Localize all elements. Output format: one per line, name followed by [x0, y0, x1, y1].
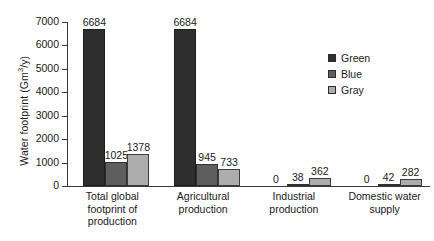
y-axis-tick-label: 0 [53, 179, 59, 191]
y-axis-tick: 1000 [62, 163, 67, 164]
bar-group: 668410251378 [83, 22, 149, 186]
bar-gray[interactable] [400, 179, 422, 186]
x-axis-category-label-line: supply [339, 203, 430, 216]
bar-slot: 38 [287, 22, 309, 186]
bar-group: 6684945733 [174, 22, 240, 186]
x-axis-category-label-line: production [158, 203, 249, 216]
bar-value-label: 0 [273, 173, 279, 185]
x-axis-category-label: Agriculturalproduction [158, 190, 249, 215]
y-axis-tick: 4000 [62, 92, 67, 93]
bar-blue[interactable] [378, 184, 400, 186]
bar-value-label: 945 [198, 151, 216, 163]
bar-slot: 945 [196, 22, 218, 186]
bar-green[interactable] [83, 29, 105, 186]
bar-gray[interactable] [218, 169, 240, 186]
y-axis-tick: 5000 [62, 69, 67, 70]
bar-slot: 6684 [174, 22, 196, 186]
y-axis-tick-label: 6000 [36, 38, 59, 50]
bar-group: 038362 [265, 22, 331, 186]
y-axis-tick: 6000 [62, 45, 67, 46]
bar-group-bars: 042282 [356, 22, 422, 186]
bar-group-bars: 6684945733 [174, 22, 240, 186]
x-axis-category-label-line: Domestic water [339, 190, 430, 203]
x-axis-category-label-line: footprint of [67, 203, 158, 216]
y-axis-tick-label: 2000 [36, 132, 59, 144]
y-axis-tick-label: 3000 [36, 109, 59, 121]
bar-slot: 362 [309, 22, 331, 186]
legend-item-blue[interactable]: Blue [328, 66, 370, 82]
x-axis-category-label: Industrialproduction [249, 190, 340, 215]
bar-value-label: 6684 [83, 16, 106, 28]
y-axis-tick-label: 4000 [36, 85, 59, 97]
bar-blue[interactable] [287, 184, 309, 186]
legend-swatch-icon [328, 54, 336, 62]
x-axis-category-label-line: production [67, 215, 158, 228]
bar-value-label: 282 [402, 166, 420, 178]
bar-slot: 6684 [83, 22, 105, 186]
bar-slot: 1025 [105, 22, 127, 186]
y-axis-tick-label: 7000 [36, 15, 59, 27]
legend-label: Green [341, 52, 370, 64]
bar-value-label: 42 [383, 171, 395, 183]
legend-label: Gray [341, 84, 364, 96]
legend-item-green[interactable]: Green [328, 50, 370, 66]
bar-chart: Water footprint (Gm3/y) 7000600050004000… [0, 0, 434, 241]
bar-slot: 1378 [127, 22, 149, 186]
bar-slot: 282 [400, 22, 422, 186]
y-axis-tick: 7000 [62, 22, 67, 23]
y-axis-tick: 0 [62, 186, 67, 187]
x-axis-category-label-line: production [249, 203, 340, 216]
bar-value-label: 362 [311, 165, 329, 177]
legend-swatch-icon [328, 86, 336, 94]
x-axis-line [67, 186, 430, 187]
bar-gray[interactable] [127, 154, 149, 186]
bar-value-label: 1025 [105, 149, 128, 161]
legend-item-gray[interactable]: Gray [328, 82, 370, 98]
y-axis-title: Water footprint (Gm3/y) [16, 26, 30, 196]
bar-group-bars: 038362 [265, 22, 331, 186]
plot-area: 70006000500040003000200010000 6684102513… [67, 22, 430, 186]
bar-value-label: 1378 [127, 141, 150, 153]
bar-value-label: 733 [220, 156, 238, 168]
bar-blue[interactable] [105, 162, 127, 186]
bar-slot: 0 [265, 22, 287, 186]
x-axis-category-label-line: Agricultural [158, 190, 249, 203]
bar-green[interactable] [174, 29, 196, 186]
x-axis-category-label-line: Industrial [249, 190, 340, 203]
bar-value-label: 0 [364, 173, 370, 185]
bar-gray[interactable] [309, 178, 331, 186]
y-axis-tick-label: 5000 [36, 62, 59, 74]
y-axis-tick-label: 1000 [36, 156, 59, 168]
bar-blue[interactable] [196, 164, 218, 186]
legend-swatch-icon [328, 70, 336, 78]
bar-group: 042282 [356, 22, 422, 186]
y-axis-tick: 3000 [62, 116, 67, 117]
y-axis-tick: 2000 [62, 139, 67, 140]
bar-group-bars: 668410251378 [83, 22, 149, 186]
chart-legend: GreenBlueGray [328, 50, 370, 98]
y-axis-line [67, 22, 68, 186]
x-axis-category-label: Total globalfootprint ofproduction [67, 190, 158, 228]
y-axis-title-suffix: /y) [18, 56, 30, 68]
x-axis-category-label-line: Total global [67, 190, 158, 203]
y-axis-title-superscript: 3 [16, 68, 25, 72]
x-axis-category-label: Domestic watersupply [339, 190, 430, 215]
y-axis-title-prefix: Water footprint (Gm [18, 72, 30, 166]
legend-label: Blue [341, 68, 362, 80]
bar-slot: 42 [378, 22, 400, 186]
bar-slot: 0 [356, 22, 378, 186]
bar-value-label: 6684 [173, 16, 196, 28]
bar-value-label: 38 [292, 171, 304, 183]
bar-slot: 733 [218, 22, 240, 186]
